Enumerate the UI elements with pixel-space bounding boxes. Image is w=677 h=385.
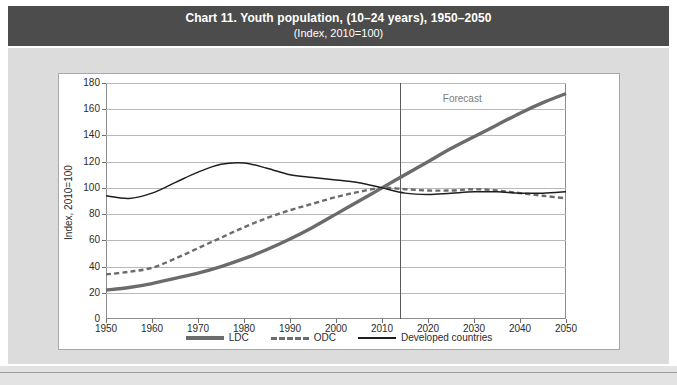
x-axis-tick-mark (520, 319, 521, 323)
chart-page: Chart 11. Youth population, (10–24 years… (0, 0, 677, 385)
y-axis-tick-label: 20 (66, 288, 100, 298)
x-axis-tick-mark (152, 319, 153, 323)
y-axis-tick-label: 180 (66, 78, 100, 88)
x-axis-tick-mark (290, 319, 291, 323)
y-axis-tick-label: 120 (66, 157, 100, 167)
legend-label: ODC (314, 332, 336, 343)
page-title: Chart 11. Youth population, (10–24 years… (8, 10, 669, 26)
x-axis-tick-mark (474, 319, 475, 323)
series-line-developed-countries (106, 163, 566, 199)
forecast-annotation: Forecast (443, 93, 482, 104)
x-axis-tick-mark (566, 319, 567, 323)
y-axis-tick-label: 80 (66, 209, 100, 219)
cut-off-footnote (280, 378, 677, 385)
page-bottom-strip (0, 366, 677, 385)
series-lines (106, 83, 566, 319)
chart-title-bar: Chart 11. Youth population, (10–24 years… (8, 6, 669, 46)
legend-label: Developed countries (401, 332, 492, 343)
y-axis-tick-label: 140 (66, 130, 100, 140)
legend-item-odc[interactable]: ODC (271, 332, 336, 343)
y-axis-label: Index, 2010=100 (63, 133, 74, 273)
x-axis-tick-mark (106, 319, 107, 323)
y-axis-tick-label: 60 (66, 235, 100, 245)
series-line-odc (106, 188, 566, 275)
legend-swatch-icon (358, 333, 396, 343)
chart-panel: Index, 2010=100 020406080100120140160180… (58, 73, 620, 350)
legend-swatch-icon (271, 333, 309, 343)
bottom-rule (0, 372, 677, 373)
legend-label: LDC (229, 332, 249, 343)
legend-item-developed-countries[interactable]: Developed countries (358, 332, 492, 343)
x-axis-tick-mark (244, 319, 245, 323)
x-axis-tick-mark (382, 319, 383, 323)
y-axis-tick-label: 40 (66, 262, 100, 272)
x-axis-tick-mark (198, 319, 199, 323)
legend-item-ldc[interactable]: LDC (186, 332, 249, 343)
plot-area: Forecast (106, 83, 566, 319)
legend-swatch-icon (186, 333, 224, 343)
y-axis-label-wrap: Index, 2010=100 (61, 134, 75, 274)
page-subtitle: (Index, 2010=100) (8, 26, 669, 41)
chart-legend: LDCODCDeveloped countries (59, 332, 619, 343)
y-axis-tick-label: 100 (66, 183, 100, 193)
x-axis-tick-mark (336, 319, 337, 323)
x-axis-tick-mark (428, 319, 429, 323)
y-axis-tick-label: 160 (66, 104, 100, 114)
